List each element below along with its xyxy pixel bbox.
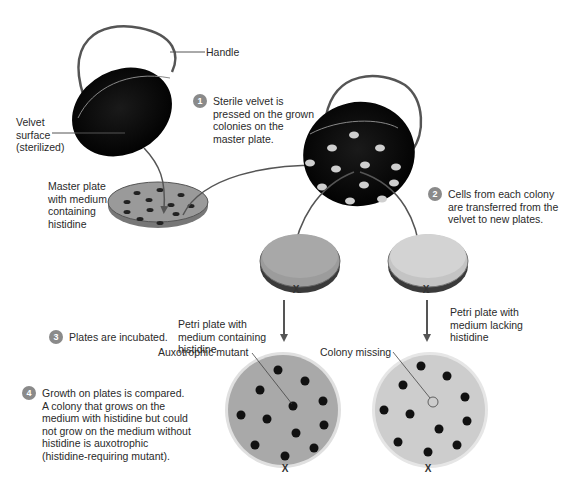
step-text: Cells from each colony are transferred f… [448,188,558,226]
step-text: Plates are incubated. [69,331,168,344]
plate-with-histidine [260,234,340,293]
step-2: 2 Cells from each colony are transferred… [428,188,558,226]
orientation-mark-x: X [425,463,432,474]
step-4: 4 Growth on plates is compared. A colony… [22,387,191,462]
step-3: 3 Plates are incubated. [49,331,168,344]
label-auxotrophic-mutant: Auxotrophic mutant [158,346,248,359]
step-number-badge: 2 [428,187,442,201]
master-plate [108,182,208,228]
label-plate-without-histidine: Petri plate with medium lacking histidin… [450,306,523,344]
step-number-badge: 3 [49,330,63,344]
step-text: Sterile velvet is pressed on the grown c… [213,95,314,145]
label-colony-missing: Colony missing [320,346,391,359]
incubated-plate-with-histidine [225,352,341,468]
step-1: 1 Sterile velvet is pressed on the grown… [193,95,314,145]
orientation-mark-x: X [293,284,300,295]
label-handle: Handle [206,46,239,59]
velvet-stamp-left [52,26,205,173]
step-number-badge: 1 [193,94,207,108]
label-master-plate: Master plate with medium containing hist… [48,180,107,230]
step-text: Growth on plates is compared. A colony t… [42,387,191,462]
incubated-plate-without-histidine [372,352,488,468]
label-velvet-surface: Velvet surface (sterilized) [16,116,64,154]
orientation-mark-x: X [282,463,289,474]
step-number-badge: 4 [22,386,36,400]
orientation-mark-x: X [423,284,430,295]
